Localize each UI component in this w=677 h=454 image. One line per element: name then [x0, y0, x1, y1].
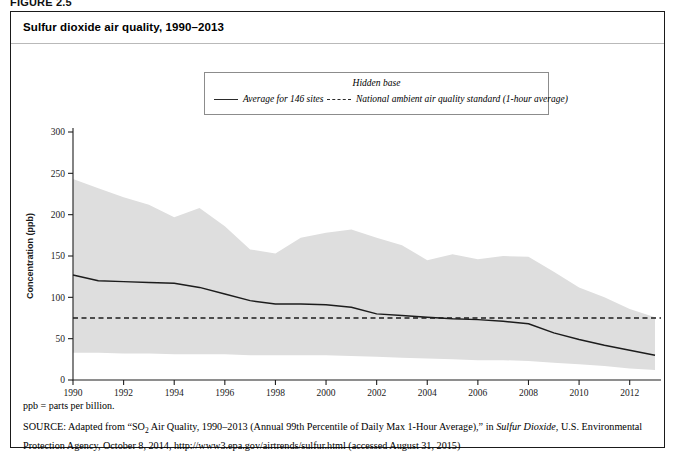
y-axis-title: Concentration (ppb): [25, 213, 35, 299]
svg-text:250: 250: [51, 169, 66, 179]
legend-item-average-label: Average for 146 sites: [243, 94, 323, 104]
svg-text:1994: 1994: [165, 388, 184, 398]
svg-text:2008: 2008: [519, 388, 538, 398]
svg-text:100: 100: [51, 293, 66, 303]
x-axis-ticks: 1990199219941996199820002002200420062008…: [64, 380, 640, 398]
svg-text:300: 300: [51, 127, 66, 137]
source-publication-title: Sulfur Dioxide: [496, 421, 556, 432]
dashed-line-icon: [327, 99, 351, 100]
svg-text:1990: 1990: [64, 388, 83, 398]
svg-text:2006: 2006: [468, 388, 487, 398]
svg-text:0: 0: [60, 375, 65, 385]
sulfur-dioxide-area-chart: 050100150200250300 199019921994199619982…: [11, 112, 666, 404]
title-divider: [11, 43, 664, 44]
figure-label: FIGURE 2.5: [10, 0, 72, 8]
svg-text:2010: 2010: [570, 388, 589, 398]
legend-title: Hidden base: [205, 78, 548, 88]
page-title: Sulfur dioxide air quality, 1990–2013: [23, 21, 224, 33]
svg-text:2000: 2000: [317, 388, 336, 398]
solid-line-icon: [214, 99, 238, 100]
figure-panel: Sulfur dioxide air quality, 1990–2013 Hi…: [10, 11, 665, 448]
svg-text:2004: 2004: [418, 388, 437, 398]
y-axis-ticks: 050100150200250300: [51, 127, 73, 385]
legend-item-standard-label: National ambient air quality standard (1…: [356, 94, 568, 104]
svg-text:1998: 1998: [266, 388, 285, 398]
svg-text:50: 50: [56, 334, 66, 344]
legend-item-average[interactable]: Average for 146 sites: [214, 94, 323, 104]
chart-plot-area: 050100150200250300 199019921994199619982…: [11, 112, 666, 404]
legend-item-standard[interactable]: National ambient air quality standard (1…: [327, 94, 568, 104]
svg-text:1996: 1996: [215, 388, 234, 398]
svg-text:200: 200: [51, 210, 66, 220]
source-text-part1: Adapted from “SO: [66, 421, 145, 432]
source-prefix: SOURCE:: [23, 421, 66, 432]
svg-text:150: 150: [51, 251, 66, 261]
svg-text:2002: 2002: [367, 388, 386, 398]
footnote-abbreviation: ppb = parts per billion.: [23, 400, 114, 411]
source-text-part2: Air Quality, 1990–2013 (Annual 99th Perc…: [149, 421, 496, 432]
source-note: SOURCE: Adapted from “SO2 Air Quality, 1…: [23, 420, 648, 453]
svg-text:1992: 1992: [114, 388, 133, 398]
chart-legend: Hidden base Average for 146 sites Nation…: [204, 72, 549, 115]
hidden-base-band: [73, 179, 655, 370]
svg-text:2012: 2012: [620, 388, 639, 398]
